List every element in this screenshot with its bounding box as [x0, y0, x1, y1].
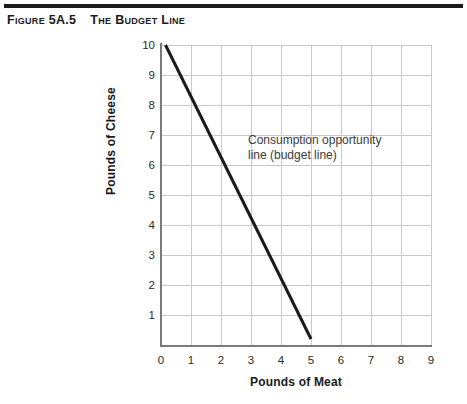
- y-axis-tick-labels: 12345678910: [130, 0, 155, 404]
- x-tick-label: 9: [419, 354, 443, 366]
- y-tick-label: 6: [133, 159, 155, 171]
- x-tick-label: 4: [269, 354, 293, 366]
- x-tick-label: 6: [329, 354, 353, 366]
- x-tick-label: 5: [299, 354, 323, 366]
- y-tick-label: 4: [133, 219, 155, 231]
- budget-line-series: [161, 45, 431, 345]
- y-tick-label: 10: [133, 39, 155, 51]
- gridline-vertical: [431, 45, 432, 345]
- y-tick-label: 3: [133, 249, 155, 261]
- x-axis-tick-labels: 0123456789: [0, 354, 467, 370]
- x-axis-line: [160, 345, 432, 347]
- budget-line-path: [166, 45, 312, 339]
- budget-line-chart: 12345678910 0123456789 Consumption oppor…: [0, 0, 467, 404]
- x-tick-label: 7: [359, 354, 383, 366]
- y-tick-label: 7: [133, 129, 155, 141]
- y-tick-label: 1: [133, 309, 155, 321]
- budget-line-annotation: Consumption opportunity line (budget lin…: [248, 133, 381, 163]
- y-tick-label: 8: [133, 99, 155, 111]
- y-axis-title: Pounds of Cheese: [104, 87, 118, 195]
- x-tick-label: 3: [239, 354, 263, 366]
- y-tick-label: 9: [133, 69, 155, 81]
- y-tick-label: 5: [133, 189, 155, 201]
- x-tick-label: 8: [389, 354, 413, 366]
- x-tick-label: 1: [179, 354, 203, 366]
- y-tick-label: 2: [133, 279, 155, 291]
- x-axis-title: Pounds of Meat: [161, 375, 431, 389]
- x-tick-label: 0: [149, 354, 173, 366]
- x-tick-label: 2: [209, 354, 233, 366]
